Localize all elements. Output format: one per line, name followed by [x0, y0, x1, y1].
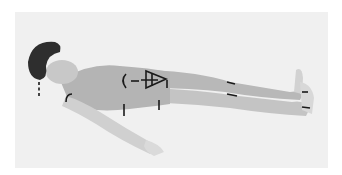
arrow-foot-icon — [302, 107, 310, 108]
hand — [144, 140, 164, 156]
foot-lower — [300, 82, 314, 114]
face — [46, 60, 78, 84]
person-illustration — [0, 0, 342, 175]
